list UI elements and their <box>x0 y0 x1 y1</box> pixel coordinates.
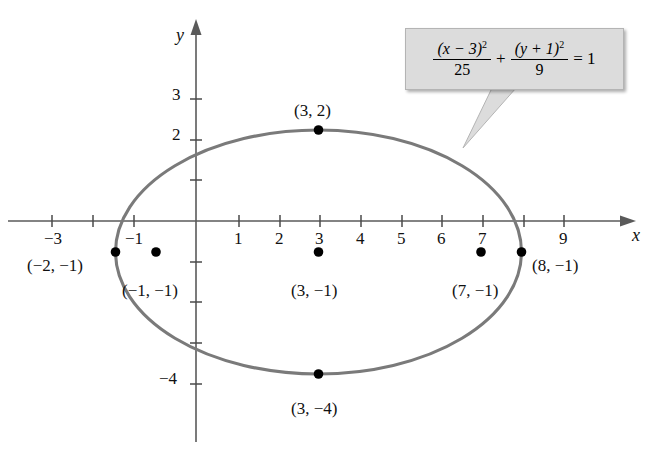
point-label-8-m1: (8, −1) <box>532 256 578 276</box>
x-tick-label: 3 <box>315 229 324 249</box>
point-label-3-2: (3, 2) <box>294 101 331 121</box>
x-tick-label: 6 <box>437 229 446 249</box>
plus-sign: + <box>496 50 506 67</box>
point-3-m4 <box>314 369 324 379</box>
ellipse-graph-figure: −3 −1 1 2 3 4 5 6 7 9 3 2 −4 y x (3, 2) … <box>0 0 655 451</box>
equation-callout: (x − 3)2 25 + (y + 1)2 9 = 1 <box>405 28 624 90</box>
y-axis <box>191 19 202 442</box>
callout-pointer <box>463 88 516 148</box>
first-denominator: 25 <box>450 60 474 78</box>
y-tick-label: 2 <box>172 125 181 145</box>
point-label-7-m1: (7, −1) <box>452 281 498 301</box>
x-tick-label: 9 <box>559 229 568 249</box>
x-tick-label: 5 <box>397 229 406 249</box>
x-tick-label: −1 <box>125 229 143 249</box>
point-label-m2-m1: (−2, −1) <box>27 256 83 276</box>
second-numerator-exponent: 2 <box>559 39 564 50</box>
first-numerator-exponent: 2 <box>482 39 487 50</box>
x-tick-label: 1 <box>234 229 243 249</box>
point-8-m1 <box>517 247 527 257</box>
point-label-3-m4: (3, −4) <box>291 399 337 419</box>
y-tick-label: 3 <box>172 85 181 105</box>
x-tick-label: 2 <box>275 229 284 249</box>
second-fraction: (y + 1)2 9 <box>511 40 569 77</box>
point-3-2 <box>314 125 324 135</box>
data-points <box>111 125 527 379</box>
x-tick-label: −3 <box>44 229 62 249</box>
point-label-3-m1: (3, −1) <box>291 281 337 301</box>
y-axis-label: y <box>176 25 184 46</box>
x-tick-label: 7 <box>478 229 487 249</box>
ellipse-equation: (x − 3)2 25 + (y + 1)2 9 = 1 <box>433 40 595 77</box>
first-fraction: (x − 3)2 25 <box>433 40 491 77</box>
point-m2-m1 <box>111 247 121 257</box>
y-tick-label: −4 <box>159 369 177 389</box>
point-label-m1-m1: (−1, −1) <box>122 281 178 301</box>
equals-one: = 1 <box>573 50 595 67</box>
x-tick-label: 4 <box>356 229 365 249</box>
second-denominator: 9 <box>531 60 547 78</box>
first-numerator: (x − 3)2 <box>433 40 491 58</box>
x-axis <box>8 216 636 227</box>
second-numerator: (y + 1)2 <box>511 40 569 58</box>
x-axis-label: x <box>632 225 640 246</box>
point-m1-m1 <box>151 247 161 257</box>
